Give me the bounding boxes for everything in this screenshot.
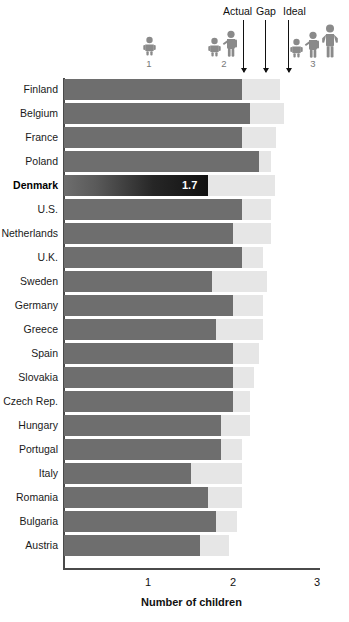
category-label-spain: Spain [0, 347, 58, 359]
marker-arrow-actual [243, 20, 244, 72]
bar-value-label-denmark: 1.7 [182, 179, 197, 191]
category-label-austria: Austria [0, 539, 58, 551]
category-label-poland: Poland [0, 155, 58, 167]
x-axis: 1 2 3 Number of children [0, 568, 349, 622]
marker-arrow-gap [265, 20, 266, 72]
table-row[interactable]: Romania [0, 487, 349, 508]
category-label-slovakia: Slovakia [0, 371, 58, 383]
figure-group-3 [290, 24, 339, 58]
x-tick-label-1: 1 [138, 576, 158, 588]
bar-segment-actual [64, 367, 233, 388]
x-axis-title: Number of children [63, 596, 320, 608]
x-tick-label-3: 3 [307, 576, 327, 588]
bar-segment-actual [64, 415, 221, 436]
figure-count-2: 2 [214, 59, 234, 69]
table-row[interactable]: Poland [0, 151, 349, 172]
marker-label-ideal: Ideal [283, 6, 306, 17]
figure-count-1: 1 [139, 59, 159, 69]
bar-segment-actual [64, 391, 233, 412]
bar-segment-actual [64, 103, 250, 124]
bar-segment-actual [64, 319, 216, 340]
teen-figure-icon [304, 31, 320, 58]
category-label-denmark: Denmark [0, 179, 58, 191]
table-row[interactable]: France [0, 127, 349, 148]
table-row[interactable]: Finland [0, 79, 349, 100]
teen-figure-icon [222, 30, 238, 57]
table-row[interactable]: Slovakia [0, 367, 349, 388]
table-row[interactable]: Sweden [0, 271, 349, 292]
bar-segment-actual [64, 271, 212, 292]
category-label-uk: U.K. [0, 251, 58, 263]
table-row-highlighted[interactable]: Denmark 1.7 [0, 175, 349, 196]
x-tick-label-2: 2 [223, 576, 243, 588]
figure-count-3: 3 [303, 59, 323, 69]
bar-segment-actual [64, 79, 242, 100]
table-row[interactable]: Hungary [0, 415, 349, 436]
category-label-netherlands: Netherlands [0, 227, 58, 239]
figure-group-2 [208, 30, 238, 57]
bar-segment-actual [64, 295, 233, 316]
bar-segment-actual [64, 535, 200, 556]
table-row[interactable]: Bulgaria [0, 511, 349, 532]
category-label-greece: Greece [0, 323, 58, 335]
child-figure-icon [290, 38, 303, 58]
category-label-romania: Romania [0, 491, 58, 503]
table-row[interactable]: Germany [0, 295, 349, 316]
category-label-france: France [0, 131, 58, 143]
table-row[interactable]: U.S. [0, 199, 349, 220]
bar-segment-actual [64, 343, 233, 364]
table-row[interactable]: Spain [0, 343, 349, 364]
table-row[interactable]: Italy [0, 463, 349, 484]
bar-segment-actual [64, 223, 233, 244]
bar-segment-actual [64, 439, 221, 460]
x-axis-line [63, 568, 320, 570]
table-row[interactable]: U.K. [0, 247, 349, 268]
table-row[interactable]: Netherlands [0, 223, 349, 244]
category-label-bulgaria: Bulgaria [0, 515, 58, 527]
category-label-czech-rep: Czech Rep. [0, 395, 58, 407]
category-label-sweden: Sweden [0, 275, 58, 287]
category-label-portugal: Portugal [0, 443, 58, 455]
chart-annotations: Actual Gap Ideal 1 [0, 0, 349, 78]
chart-container: Actual Gap Ideal 1 [0, 0, 349, 622]
bar-segment-actual [64, 487, 208, 508]
table-row[interactable]: Greece [0, 319, 349, 340]
table-row[interactable]: Belgium [0, 103, 349, 124]
marker-label-actual: Actual [223, 6, 252, 17]
child-figure-icon [208, 37, 221, 57]
plot-area: Finland Belgium France Poland [0, 78, 349, 568]
adult-figure-icon [321, 24, 339, 58]
table-row[interactable]: Austria [0, 535, 349, 556]
figure-group-1 [143, 36, 156, 56]
category-label-germany: Germany [0, 299, 58, 311]
table-row[interactable]: Portugal [0, 439, 349, 460]
category-label-us: U.S. [0, 203, 58, 215]
category-label-finland: Finland [0, 83, 58, 95]
category-label-hungary: Hungary [0, 419, 58, 431]
bar-segment-actual [64, 151, 259, 172]
category-label-italy: Italy [0, 467, 58, 479]
bar-segment-actual [64, 247, 242, 268]
bar-segment-actual [64, 199, 242, 220]
marker-arrow-ideal [288, 20, 289, 72]
marker-label-gap: Gap [256, 6, 276, 17]
bar-segment-actual [64, 127, 242, 148]
child-figure-icon [143, 36, 156, 56]
category-label-belgium: Belgium [0, 107, 58, 119]
bar-segment-actual [64, 511, 216, 532]
table-row[interactable]: Czech Rep. [0, 391, 349, 412]
bar-segment-actual [64, 463, 191, 484]
